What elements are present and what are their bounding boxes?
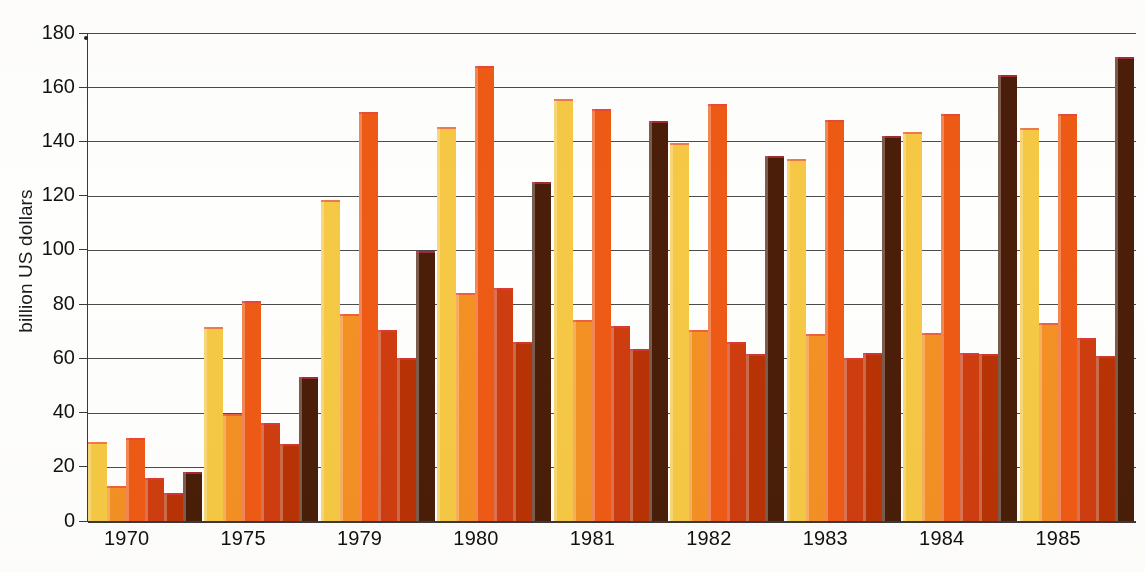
bar-1981-series-4[interactable]: [611, 326, 630, 521]
bar-1983-series-2[interactable]: [806, 334, 825, 521]
bar-group-1983: [787, 33, 903, 521]
bar-1975-series-3[interactable]: [242, 301, 261, 521]
x-axis-label-1982: 1982: [670, 527, 786, 567]
bar-1970-series-5[interactable]: [164, 493, 183, 521]
bar-1982-series-2[interactable]: [689, 330, 708, 521]
bar-1970-series-6[interactable]: [183, 472, 202, 521]
bar-chart: billion US dollars 180160140120100806040…: [0, 0, 1145, 572]
plot-area: [88, 33, 1136, 521]
y-axis-ticks: 180160140120100806040200: [0, 33, 88, 521]
bar-1980-series-5[interactable]: [513, 342, 532, 521]
bar-group-1980: [437, 33, 553, 521]
x-axis-label-1980: 1980: [437, 527, 553, 567]
bar-1984-series-5[interactable]: [979, 354, 998, 521]
bar-group-1982: [670, 33, 786, 521]
bar-1970-series-3[interactable]: [126, 438, 145, 521]
bar-1980-series-2[interactable]: [456, 293, 475, 521]
bar-1982-series-3[interactable]: [708, 104, 727, 522]
bar-1970-series-1[interactable]: [88, 442, 107, 521]
bar-1984-series-4[interactable]: [960, 353, 979, 521]
bar-1983-series-6[interactable]: [882, 136, 901, 521]
bar-group-1984: [903, 33, 1019, 521]
x-axis-label-1984: 1984: [903, 527, 1019, 567]
bar-1983-series-5[interactable]: [863, 353, 882, 521]
bar-1975-series-5[interactable]: [280, 444, 299, 521]
x-axis-label-1979: 1979: [321, 527, 437, 567]
y-tick-label: 60: [53, 346, 79, 369]
bar-1975-series-2[interactable]: [223, 414, 242, 521]
bar-1981-series-2[interactable]: [573, 320, 592, 521]
bar-1984-series-6[interactable]: [998, 75, 1017, 521]
bar-group-1985: [1020, 33, 1136, 521]
y-tick-label: 80: [53, 292, 79, 315]
bar-1985-series-3[interactable]: [1058, 114, 1077, 521]
bar-1970-series-4[interactable]: [145, 478, 164, 521]
y-tick-label: 0: [64, 509, 79, 532]
bar-1985-series-2[interactable]: [1039, 323, 1058, 521]
bar-1979-series-5[interactable]: [397, 358, 416, 521]
y-tick-label: 100: [42, 237, 79, 260]
bar-1985-series-6[interactable]: [1115, 57, 1134, 521]
y-axis-spine: [87, 33, 88, 522]
y-tick-label: 140: [42, 129, 79, 152]
x-axis-label-1983: 1983: [787, 527, 903, 567]
bar-1979-series-6[interactable]: [416, 251, 435, 521]
bar-groups: [88, 33, 1136, 521]
x-axis-label-1985: 1985: [1020, 527, 1136, 567]
bar-group-1975: [204, 33, 320, 521]
bar-1984-series-2[interactable]: [922, 333, 941, 521]
bar-1975-series-4[interactable]: [261, 423, 280, 521]
bar-1982-series-4[interactable]: [727, 342, 746, 521]
x-axis-label-1970: 1970: [88, 527, 204, 567]
bar-1983-series-3[interactable]: [825, 120, 844, 521]
bar-1975-series-6[interactable]: [299, 377, 318, 521]
bar-1981-series-5[interactable]: [630, 349, 649, 521]
bar-1981-series-3[interactable]: [592, 109, 611, 521]
y-tick-label: 40: [53, 400, 79, 423]
x-axis-label-1981: 1981: [554, 527, 670, 567]
gridline-0: [88, 521, 1136, 523]
bar-1982-series-5[interactable]: [746, 354, 765, 521]
bar-1985-series-4[interactable]: [1077, 338, 1096, 521]
y-tick-label: 180: [42, 21, 79, 44]
bar-1983-series-1[interactable]: [787, 159, 806, 521]
bar-1980-series-3[interactable]: [475, 66, 494, 521]
bar-1985-series-1[interactable]: [1020, 128, 1039, 521]
bar-group-1979: [321, 33, 437, 521]
bar-1984-series-3[interactable]: [941, 114, 960, 521]
bar-1970-series-2[interactable]: [107, 486, 126, 521]
bar-1982-series-6[interactable]: [765, 156, 784, 521]
bar-group-1981: [554, 33, 670, 521]
bar-1983-series-4[interactable]: [844, 358, 863, 521]
bar-1982-series-1[interactable]: [670, 143, 689, 521]
x-axis-labels: 197019751979198019811982198319841985: [88, 527, 1136, 567]
bar-1981-series-1[interactable]: [554, 99, 573, 521]
bar-1975-series-1[interactable]: [204, 327, 223, 521]
bar-1981-series-6[interactable]: [649, 121, 668, 521]
y-tick-label: 20: [53, 454, 79, 477]
bar-1980-series-6[interactable]: [532, 182, 551, 521]
axis-top-marker-icon: [84, 36, 88, 40]
bar-1985-series-5[interactable]: [1096, 356, 1115, 521]
bar-1980-series-1[interactable]: [437, 127, 456, 521]
bar-1979-series-3[interactable]: [359, 112, 378, 521]
bar-1979-series-1[interactable]: [321, 200, 340, 521]
y-tick-label: 160: [42, 75, 79, 98]
bar-1979-series-4[interactable]: [378, 330, 397, 521]
bar-1979-series-2[interactable]: [340, 314, 359, 521]
y-tick-label: 120: [42, 183, 79, 206]
x-axis-label-1975: 1975: [204, 527, 320, 567]
bar-group-1970: [88, 33, 204, 521]
bar-1984-series-1[interactable]: [903, 132, 922, 521]
bar-1980-series-4[interactable]: [494, 288, 513, 521]
